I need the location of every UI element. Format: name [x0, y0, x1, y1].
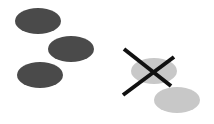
dark-ellipse: [48, 36, 94, 62]
dark-ellipse: [15, 8, 61, 34]
dark-ellipse: [17, 62, 63, 88]
ellipse-diagram: [0, 0, 214, 124]
light-ellipse: [154, 87, 200, 113]
